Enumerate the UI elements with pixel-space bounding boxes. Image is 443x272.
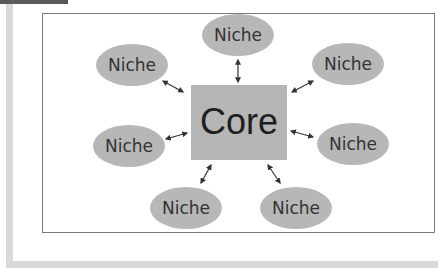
arrow-core-bottom-left [201, 165, 211, 183]
niche-label: Niche [324, 54, 372, 74]
niche-label: Niche [108, 55, 156, 75]
niche-label: Niche [214, 25, 262, 45]
niche-label: Niche [105, 136, 153, 156]
niche-node-top-right: Niche [312, 43, 384, 85]
niche-node-top-left: Niche [96, 44, 168, 86]
core-label: Core [200, 101, 278, 142]
niche-node-bottom-right: Niche [260, 187, 332, 229]
arrow-core-middle-right [291, 131, 313, 137]
arrow-core-bottom-right [268, 165, 280, 183]
core-niche-diagram: Core Niche Niche Niche Niche Niche Niche… [0, 0, 443, 272]
arrow-core-middle-left [166, 133, 187, 139]
niche-label: Niche [272, 198, 320, 218]
niche-label: Niche [162, 198, 210, 218]
core-node: Core [191, 85, 287, 160]
niche-node-middle-left: Niche [93, 125, 165, 167]
arrow-core-top-left [163, 81, 183, 92]
arrow-core-top-right [292, 81, 313, 92]
niche-node-middle-right: Niche [317, 123, 389, 165]
niche-node-bottom-left: Niche [150, 187, 222, 229]
niche-label: Niche [329, 134, 377, 154]
niche-node-top: Niche [202, 14, 274, 56]
